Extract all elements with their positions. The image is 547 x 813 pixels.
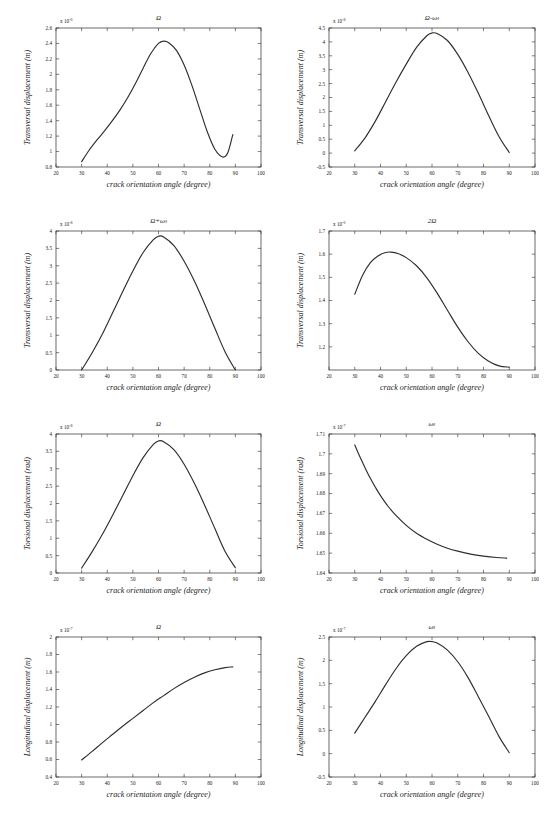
x-tick-label: 90: [233, 780, 239, 786]
figure-grid: Ωx 10-620304050607080901000.811.21.41.61…: [0, 0, 547, 813]
y-tick-label: 1: [49, 332, 52, 338]
x-tick-label: 60: [156, 373, 162, 379]
x-tick-label: 60: [156, 170, 162, 176]
x-tick-label: 80: [207, 373, 213, 379]
x-tick-label: 50: [130, 780, 136, 786]
y-tick-label: 1.5: [319, 274, 326, 280]
panel-1-svg: Ωx 10-620304050607080901000.811.21.41.61…: [0, 0, 273, 203]
y-tick-label: 4.5: [319, 25, 326, 31]
chart-panel-5: Ωx 10-8203040506070809010000.511.522.533…: [0, 406, 273, 609]
y-tick-label: 0.8: [46, 739, 53, 745]
x-tick-label: 100: [531, 373, 539, 379]
x-axis-label: crack orientation angle (degree): [107, 790, 211, 799]
panel-5-svg: Ωx 10-8203040506070809010000.511.522.533…: [0, 406, 273, 609]
y-tick-label: 0.5: [319, 136, 326, 142]
x-tick-label: 100: [531, 170, 539, 176]
x-tick-label: 30: [79, 373, 85, 379]
y-tick-label: 1: [49, 148, 52, 154]
y-tick-label: 0.4: [46, 774, 53, 780]
panel-title: Ω+ωₜ: [150, 217, 168, 225]
x-tick-label: 20: [53, 780, 59, 786]
x-axis-label: crack orientation angle (degree): [107, 180, 211, 189]
y-tick-label: 4: [322, 39, 325, 45]
y-tick-label: 0.8: [46, 164, 53, 170]
y-tick-label: 2.5: [319, 81, 326, 87]
y-tick-label: 1.3: [319, 321, 326, 327]
y-tick-label: 1.7: [319, 451, 326, 457]
x-tick-label: 90: [233, 170, 239, 176]
data-curve: [82, 441, 236, 569]
y-tick-label: 1.6: [46, 102, 53, 108]
y-tick-label: 1.71: [316, 431, 325, 437]
x-tick-label: 40: [105, 576, 111, 582]
plot-frame: [329, 434, 535, 573]
x-tick-label: 30: [79, 576, 85, 582]
y-tick-label: 1.65: [316, 550, 325, 556]
y-tick-label: 2: [49, 500, 52, 506]
y-tick-label: 0: [322, 751, 325, 757]
y-tick-label: 1.69: [316, 471, 325, 477]
data-curve: [355, 252, 510, 367]
x-tick-label: 90: [507, 576, 513, 582]
x-tick-label: 50: [130, 373, 136, 379]
panel-2-svg: Ω-ωₜx 10-82030405060708090100-0.500.511.…: [273, 0, 547, 203]
y-tick-label: 1: [49, 535, 52, 541]
y-tick-label: -0.5: [317, 164, 326, 170]
y-tick-label: 1.4: [46, 118, 53, 124]
y-tick-label: 1: [49, 721, 52, 727]
x-tick-label: 20: [53, 373, 59, 379]
data-curve: [355, 445, 507, 558]
x-tick-label: 60: [429, 373, 435, 379]
y-tick-label: 1: [322, 704, 325, 710]
y-tick-label: 1.8: [46, 651, 53, 657]
chart-panel-7: Ωx 10-720304050607080901000.40.60.811.21…: [0, 609, 273, 813]
y-axis-label: Torsional displacement (rad): [23, 457, 32, 550]
x-tick-label: 30: [352, 170, 358, 176]
x-tick-label: 60: [156, 576, 162, 582]
plot-frame: [329, 637, 535, 777]
y-axis-exponent: x 10-8: [333, 17, 345, 24]
panel-6-svg: ωₜx 10-720304050607080901001.641.651.661…: [273, 406, 547, 609]
panel-3-svg: Ω+ωₜx 10-8203040506070809010000.511.522.…: [0, 203, 273, 406]
x-tick-label: 100: [257, 373, 265, 379]
x-axis-label: crack orientation angle (degree): [380, 790, 484, 799]
x-axis-label: crack orientation angle (degree): [107, 383, 211, 392]
chart-panel-1: Ωx 10-620304050607080901000.811.21.41.61…: [0, 0, 273, 203]
y-tick-label: 0.5: [46, 350, 53, 356]
x-tick-label: 80: [207, 576, 213, 582]
x-tick-label: 100: [531, 576, 539, 582]
y-tick-label: 3: [49, 263, 52, 269]
y-tick-label: 2.5: [46, 483, 53, 489]
y-tick-label: 1.6: [46, 669, 53, 675]
y-tick-label: 2.5: [319, 634, 326, 640]
y-tick-label: 0: [322, 150, 325, 156]
chart-panel-8: ωₜx 10-72030405060708090100-0.500.511.52…: [273, 609, 547, 813]
panel-title: Ω: [156, 420, 161, 428]
x-tick-label: 80: [481, 780, 487, 786]
y-tick-label: 1.64: [316, 570, 325, 576]
y-axis-exponent: x 10-7: [60, 626, 72, 633]
panel-8-svg: ωₜx 10-72030405060708090100-0.500.511.52…: [273, 609, 547, 813]
x-tick-label: 100: [257, 780, 265, 786]
y-tick-label: 2: [49, 71, 52, 77]
y-axis-label: Longitudinal displacement (m): [296, 657, 305, 757]
y-axis-exponent: x 10-8: [60, 423, 72, 430]
y-tick-label: 1.8: [46, 87, 53, 93]
x-tick-label: 20: [326, 780, 332, 786]
plot-frame: [329, 28, 535, 167]
y-axis-exponent: x 10-8: [60, 220, 72, 227]
x-tick-label: 20: [326, 170, 332, 176]
x-tick-label: 70: [455, 780, 461, 786]
y-tick-label: 3.5: [46, 448, 53, 454]
x-tick-label: 50: [130, 576, 136, 582]
y-tick-label: 1.5: [319, 681, 326, 687]
y-tick-label: 2: [49, 634, 52, 640]
y-axis-label: Transversal displacement (m): [296, 50, 305, 145]
x-tick-label: 100: [531, 780, 539, 786]
plot-frame: [329, 231, 535, 370]
x-tick-label: 80: [207, 780, 213, 786]
x-tick-label: 40: [105, 170, 111, 176]
x-tick-label: 70: [182, 780, 188, 786]
y-tick-label: 1.67: [316, 510, 325, 516]
data-curve: [82, 236, 236, 370]
